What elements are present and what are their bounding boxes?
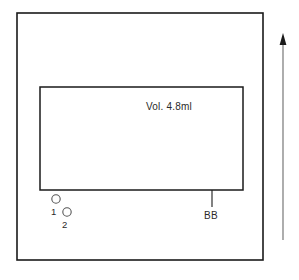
bb-callout-label: BB xyxy=(204,210,218,221)
figure-canvas: Vol. 4.8ml BB 1 2 xyxy=(0,0,299,280)
port-1-circle xyxy=(52,195,60,203)
inner-chamber-rect xyxy=(40,87,243,190)
port-2-circle xyxy=(63,208,71,216)
technical-drawing: Vol. 4.8ml BB 1 2 xyxy=(0,0,299,280)
up-arrow-head-icon xyxy=(280,33,287,45)
outer-panel-rect xyxy=(17,13,263,260)
volume-label: Vol. 4.8ml xyxy=(146,101,192,112)
port-1-label: 1 xyxy=(51,206,56,217)
port-2-label: 2 xyxy=(62,219,67,230)
